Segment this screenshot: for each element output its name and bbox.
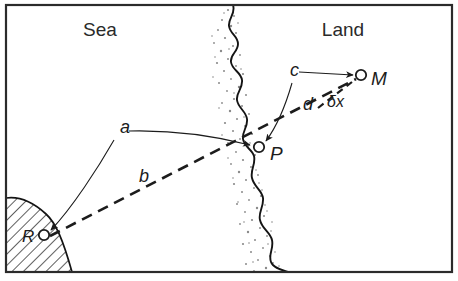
path-label-delta-x: δx bbox=[327, 93, 345, 110]
region-label-land: Land bbox=[322, 19, 364, 40]
figure-canvas: Sea Land M P R a b c d δx bbox=[0, 0, 458, 281]
point-marker-M[interactable] bbox=[356, 70, 366, 80]
point-label-R: R bbox=[22, 227, 34, 246]
path-label-b: b bbox=[139, 166, 149, 186]
path-label-a: a bbox=[120, 117, 130, 137]
path-label-c: c bbox=[290, 60, 299, 80]
point-label-P: P bbox=[270, 143, 283, 164]
path-label-d: d bbox=[303, 94, 314, 114]
point-marker-P[interactable] bbox=[254, 142, 264, 152]
point-marker-R[interactable] bbox=[39, 230, 49, 240]
point-label-M: M bbox=[371, 68, 387, 89]
region-label-sea: Sea bbox=[83, 19, 117, 40]
